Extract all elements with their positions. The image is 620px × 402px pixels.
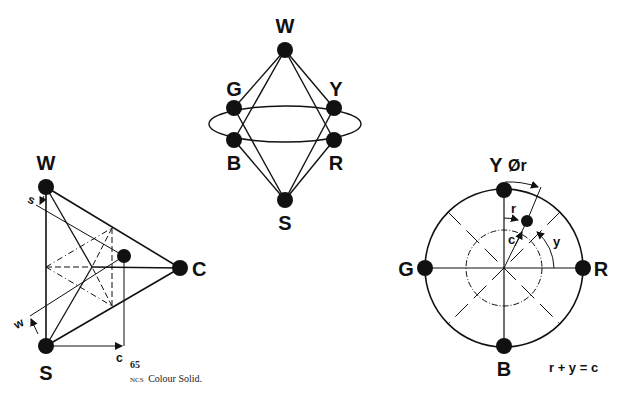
node-s-triangle [38,338,54,354]
label-phi-r: Ør [508,157,527,174]
node-w-triangle [38,179,54,195]
caption-title: Colour Solid. [148,373,202,384]
label-y-small: y [553,234,561,249]
label-w-top: W [276,15,295,37]
caption-prefix: NCS [130,376,144,384]
label-c-small-circle: c [508,232,515,247]
node-s [277,192,293,208]
label-y-top: Y [329,78,343,100]
label-s-top: S [278,212,291,234]
node-b [226,132,242,148]
label-b-circle: B [497,358,511,380]
node-g-circle [417,260,433,276]
label-c-small: c [116,351,123,365]
label-r-circle: R [594,258,609,280]
caption-text: NCS Colour Solid. [130,373,202,384]
node-r [326,132,342,148]
node-c-triangle [172,260,188,276]
node-g [226,100,242,116]
node-y-circle [496,182,512,198]
label-c-triangle: C [192,258,206,280]
formula: r + y = c [549,360,598,375]
label-b-top: B [227,152,241,174]
node-y [326,100,342,116]
label-w-small: w [11,315,27,333]
caption-number: 65 [130,359,140,370]
double-cone-diagram [209,50,361,200]
sample-point-circle [521,215,533,227]
label-s-triangle: S [39,362,52,384]
node-w [277,42,293,58]
triangle-diagram [30,187,180,346]
hue-circle-diagram [425,182,583,347]
label-s-small: s [25,192,37,208]
label-r-top: R [329,152,344,174]
label-r-small: r [511,201,516,216]
label-y-circle: Y [489,154,503,176]
node-b-circle [496,338,512,354]
label-w-triangle: W [37,152,56,174]
node-r-circle [575,260,591,276]
ncs-colour-solid-figure: W G Y B R S W S C s w c 65 NC [0,0,620,402]
sample-point-triangle [117,249,131,263]
label-g-top: G [226,78,242,100]
label-g-circle: G [398,258,414,280]
